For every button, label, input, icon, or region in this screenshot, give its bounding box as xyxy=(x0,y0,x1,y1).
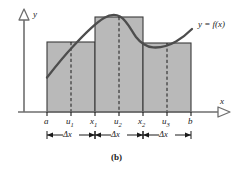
figure-caption: (b) xyxy=(111,152,122,162)
delta-x-label-1-x: x xyxy=(68,129,72,139)
y-axis-arrowhead-icon xyxy=(19,9,29,20)
tick-label-u2: u2 xyxy=(114,117,122,128)
tick-label-x2-sub: 2 xyxy=(142,121,145,128)
x-axis-label: x xyxy=(220,97,224,106)
tick-label-x1: x1 xyxy=(90,117,97,128)
delta-x-label-3-x: x xyxy=(164,129,168,139)
tick-label-u3-sub: 3 xyxy=(167,121,170,128)
tick-label-x2: x2 xyxy=(138,117,145,128)
function-label: y = f(x) xyxy=(198,20,225,29)
function-label-y: y xyxy=(198,19,202,29)
function-label-fx: f(x) xyxy=(213,19,226,29)
delta-x-label-2-x: x xyxy=(116,129,120,139)
tick-label-u1: u1 xyxy=(66,117,74,128)
x-axis-arrowhead-icon xyxy=(218,107,230,117)
function-label-equals: = xyxy=(204,19,210,29)
tick-label-b: b xyxy=(188,117,193,128)
tick-label-u2-sub: 2 xyxy=(119,121,122,128)
tick-label-x1-sub: 1 xyxy=(94,121,97,128)
tick-label-a: a xyxy=(44,117,49,128)
riemann-sum-figure: y x y = f(x) a u1 x1 u2 x2 u3 b Δx Δx Δx… xyxy=(0,0,248,170)
y-axis-label: y xyxy=(33,10,37,19)
delta-x-label-2: Δx xyxy=(111,130,120,139)
tick-label-u1-sub: 1 xyxy=(71,121,74,128)
delta-x-label-3: Δx xyxy=(159,130,168,139)
tick-label-u3: u3 xyxy=(162,117,170,128)
tick-label-a-base: a xyxy=(44,116,49,126)
tick-label-b-base: b xyxy=(188,116,193,126)
delta-x-label-1: Δx xyxy=(63,130,72,139)
